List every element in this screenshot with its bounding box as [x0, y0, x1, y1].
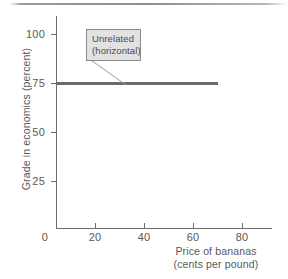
y-axis-tick-25 — [51, 181, 57, 182]
x-axis-tick-80 — [242, 223, 243, 229]
y-axis-ticklabel-50: 50 — [32, 127, 45, 138]
y-axis-title: Grade in economics (percent) — [20, 24, 32, 214]
data-series-unrelated-line — [57, 82, 218, 85]
x-axis-title: Price of bananas (cents per pound) — [148, 245, 284, 271]
x-axis-tick-20 — [95, 223, 96, 229]
callout-leader-line — [88, 58, 126, 85]
y-axis-line — [56, 16, 57, 229]
annotation-callout-unrelated: Unrelated (horizontal) — [86, 29, 141, 61]
x-axis-ticklabel-60: 60 — [178, 232, 208, 243]
y-axis-ticklabel-25: 25 — [32, 176, 45, 187]
x-axis-ticklabel-20: 20 — [80, 232, 110, 243]
x-axis-ticklabel-40: 40 — [129, 232, 159, 243]
x-axis-tick-60 — [193, 223, 194, 229]
y-axis-ticklabel-75: 75 — [32, 78, 45, 89]
x-axis-ticklabel-80: 80 — [227, 232, 257, 243]
y-axis-tick-100 — [51, 34, 57, 35]
figure-unrelated-variables: 100 75 50 25 0 20 40 60 80 Grade in econ… — [0, 0, 288, 279]
annotation-callout-line2: (horizontal) — [92, 45, 136, 57]
annotation-callout-line1: Unrelated — [92, 33, 136, 45]
top-divider-rule — [10, 3, 288, 5]
x-axis-ticklabel-0: 0 — [30, 232, 60, 243]
x-axis-title-line2: (cents per pound) — [148, 258, 284, 271]
x-axis-title-line1: Price of bananas — [148, 245, 284, 258]
x-axis-tick-40 — [144, 223, 145, 229]
y-axis-tick-50 — [51, 132, 57, 133]
x-axis-line — [56, 228, 272, 229]
